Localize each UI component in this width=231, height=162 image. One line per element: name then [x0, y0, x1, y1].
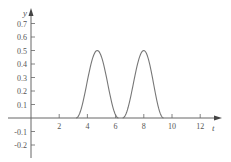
y-tick-label: 0.4 [17, 60, 27, 69]
y-tick-label: 0.2 [17, 87, 27, 96]
x-tick-label: 8 [142, 122, 146, 131]
y-tick-label: -0.1 [14, 128, 27, 137]
curve [76, 51, 163, 119]
y-tick-label: 0.7 [17, 20, 27, 29]
x-axis-arrow-icon [214, 116, 222, 121]
x-tick-label: 10 [168, 122, 176, 131]
y-tick-label: -0.2 [14, 141, 27, 150]
x-tick-label: 4 [85, 122, 89, 131]
y-tick-label: 0.3 [17, 74, 27, 83]
chart: 24681012-0.2-0.10.10.20.30.40.50.60.7 y … [0, 0, 231, 162]
y-tick-label: 0.6 [17, 33, 27, 42]
axes [8, 8, 222, 158]
x-tick-label: 2 [57, 122, 61, 131]
x-tick-label: 12 [196, 122, 204, 131]
y-tick-label: 0.5 [17, 47, 27, 56]
y-axis-label: y [22, 8, 27, 18]
y-tick-label: 0.1 [17, 101, 27, 110]
x-axis-label: t [212, 123, 215, 133]
curve-bump [123, 51, 164, 119]
ticks: 24681012-0.2-0.10.10.20.30.40.50.60.7 [14, 20, 204, 151]
curve-bump [76, 51, 118, 119]
x-tick-label: 6 [114, 122, 118, 131]
y-axis-arrow-icon [29, 8, 34, 16]
